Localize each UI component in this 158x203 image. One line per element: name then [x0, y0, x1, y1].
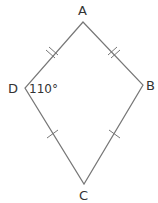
angle-label-d: 110° [29, 82, 58, 96]
kite-shape [25, 22, 143, 184]
tick-mark-dc [47, 130, 58, 138]
kite-diagram: A B C D 110° [0, 0, 158, 203]
tick-marks-ab [108, 47, 120, 58]
vertex-label-a: A [78, 3, 87, 18]
vertex-label-d: D [8, 81, 18, 96]
tick-mark-bc [109, 130, 120, 138]
vertex-label-b: B [146, 78, 155, 93]
vertex-label-c: C [79, 188, 88, 203]
